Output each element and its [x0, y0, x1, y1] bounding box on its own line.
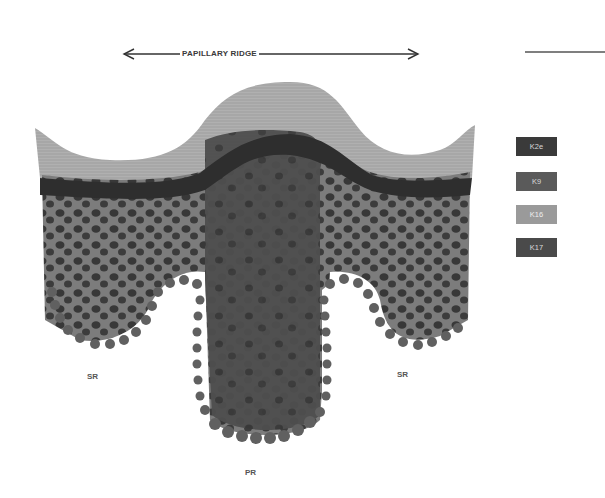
label-secondary-ridge-left: SR [87, 372, 98, 381]
dermal-papilla-right [322, 281, 370, 498]
legend-swatch-k9: K9 [516, 172, 557, 191]
legend-label-k9: K9 [532, 177, 541, 186]
epidermis-cross-section [0, 0, 605, 498]
legend-label-k17: K17 [530, 243, 543, 252]
label-primary-ridge: PR [245, 468, 256, 477]
legend-label-k16: K16 [530, 210, 543, 219]
label-secondary-ridge-right: SR [397, 370, 408, 379]
legend-swatch-k17: K17 [516, 238, 557, 257]
legend-swatch-k16: K16 [516, 205, 557, 224]
legend-swatch-k2e: K2e [516, 137, 557, 156]
legend-label-k2e: K2e [530, 142, 543, 151]
